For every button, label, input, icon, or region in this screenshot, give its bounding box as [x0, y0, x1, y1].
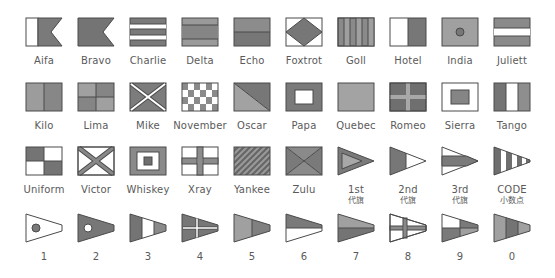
flag-november: November	[172, 82, 228, 132]
flag-tango-icon	[493, 82, 531, 112]
flag-foxtrot-icon	[285, 17, 323, 47]
pennant-3rd-substitute: 3rd 代旗	[432, 146, 488, 206]
flag-sierra: Sierra	[432, 82, 488, 132]
flag-label: 2nd	[380, 184, 436, 196]
flag-label: 9	[432, 251, 488, 263]
flag-sublabel: 代旗	[432, 196, 488, 206]
flag-label: Foxtrot	[276, 55, 332, 67]
flag-label: 4	[172, 251, 228, 263]
flag-label: Victor	[68, 184, 124, 196]
flag-label: Bravo	[68, 55, 124, 67]
pennant-code-decimal-icon	[493, 146, 531, 176]
flag-oscar: Oscar	[224, 82, 280, 132]
pennant-8-icon	[389, 213, 427, 243]
pennant-7-icon	[337, 213, 375, 243]
flag-whiskey: Whiskey	[120, 146, 176, 196]
flag-romeo-icon	[389, 82, 427, 112]
flag-label: Sierra	[432, 120, 488, 132]
flag-label: Oscar	[224, 120, 280, 132]
flag-uniform-icon	[25, 146, 63, 176]
flag-tango: Tango	[484, 82, 540, 132]
flag-xray-icon	[181, 146, 219, 176]
pennant-4: 4	[172, 213, 228, 263]
flag-label: Aifa	[16, 55, 72, 67]
pennant-1st-substitute: 1st 代旗	[328, 146, 384, 206]
flag-delta-icon	[181, 17, 219, 47]
flag-golf-icon	[337, 17, 375, 47]
flag-label: November	[172, 120, 228, 132]
flag-label: Xray	[172, 184, 228, 196]
flag-alfa: Aifa	[16, 17, 72, 67]
flag-lima-icon	[77, 82, 115, 112]
flag-bravo: Bravo	[68, 17, 124, 67]
flag-label: Mike	[120, 120, 176, 132]
flag-label: 3	[120, 251, 176, 263]
flag-label: Juliett	[484, 55, 540, 67]
flag-label: Yankee	[224, 184, 280, 196]
pennant-0: 0	[484, 213, 540, 263]
pennant-1: 1	[16, 213, 72, 263]
flag-yankee: Yankee	[224, 146, 280, 196]
flag-label: Hotel	[380, 55, 436, 67]
flag-juliett: Juliett	[484, 17, 540, 67]
flag-whiskey-icon	[129, 146, 167, 176]
flag-kilo-icon	[25, 82, 63, 112]
flag-alfa-icon	[25, 17, 63, 47]
flag-zulu-icon	[285, 146, 323, 176]
flag-india: India	[432, 17, 488, 67]
pennant-2-icon	[77, 213, 115, 243]
flag-label: Goll	[328, 55, 384, 67]
pennant-6: 6	[276, 213, 332, 263]
flag-label: Romeo	[380, 120, 436, 132]
flag-juliett-icon	[493, 17, 531, 47]
flag-delta: Delta	[172, 17, 228, 67]
flag-label: 5	[224, 251, 280, 263]
flag-mike: Mike	[120, 82, 176, 132]
flag-sierra-icon	[441, 82, 479, 112]
pennant-3: 3	[120, 213, 176, 263]
flag-papa-icon	[285, 82, 323, 112]
flag-sublabel: 小数点	[484, 196, 540, 206]
flag-label: Charlie	[120, 55, 176, 67]
flag-label: 0	[484, 251, 540, 263]
pennant-5: 5	[224, 213, 280, 263]
flag-echo: Echo	[224, 17, 280, 67]
flag-lima: Lima	[68, 82, 124, 132]
pennant-2: 2	[68, 213, 124, 263]
pennant-2nd-substitute: 2nd 代旗	[380, 146, 436, 206]
pennant-2nd-substitute-icon	[389, 146, 427, 176]
flag-label: Tango	[484, 120, 540, 132]
flag-label: India	[432, 55, 488, 67]
flag-label: Kilo	[16, 120, 72, 132]
pennant-8: 8	[380, 213, 436, 263]
flag-golf: Goll	[328, 17, 384, 67]
pennant-7: 7	[328, 213, 384, 263]
pennant-0-icon	[493, 213, 531, 243]
pennant-3rd-substitute-icon	[441, 146, 479, 176]
flag-papa: Papa	[276, 82, 332, 132]
flag-hotel: Hotel	[380, 17, 436, 67]
flag-label: 1st	[328, 184, 384, 196]
flag-kilo: Kilo	[16, 82, 72, 132]
pennant-4-icon	[181, 213, 219, 243]
flag-zulu: Zulu	[276, 146, 332, 196]
flag-label: CODE	[484, 184, 540, 196]
flag-november-icon	[181, 82, 219, 112]
flag-bravo-icon	[77, 17, 115, 47]
flag-foxtrot: Foxtrot	[276, 17, 332, 67]
flag-label: 8	[380, 251, 436, 263]
flag-label: 2	[68, 251, 124, 263]
flag-echo-icon	[233, 17, 271, 47]
flag-sublabel: 代旗	[380, 196, 436, 206]
flag-oscar-icon	[233, 82, 271, 112]
flag-label: 7	[328, 251, 384, 263]
pennant-1-icon	[25, 213, 63, 243]
flag-sublabel: 代旗	[328, 196, 384, 206]
flag-label: 1	[16, 251, 72, 263]
pennant-9: 9	[432, 213, 488, 263]
flag-victor: Victor	[68, 146, 124, 196]
flag-quebec: Quebec	[328, 82, 384, 132]
flag-victor-icon	[77, 146, 115, 176]
flag-xray: Xray	[172, 146, 228, 196]
pennant-6-icon	[285, 213, 323, 243]
